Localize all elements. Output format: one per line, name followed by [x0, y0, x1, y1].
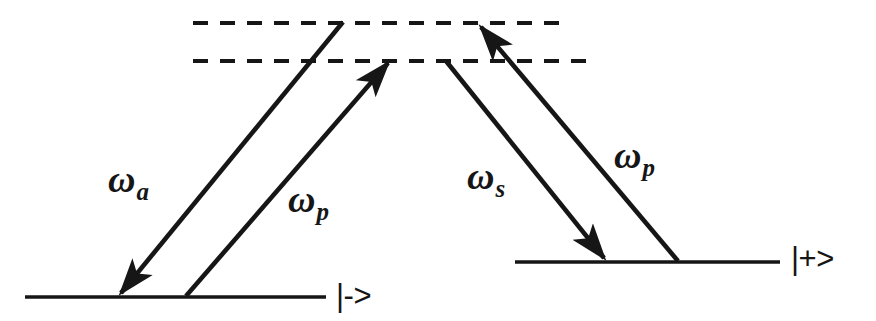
- omega-symbol: ω: [288, 178, 315, 220]
- omega-subscript: p: [316, 198, 329, 225]
- state-label-minus: |->: [336, 280, 371, 311]
- omega-symbol: ω: [614, 134, 641, 176]
- omega-symbol: ω: [108, 158, 135, 200]
- omega-symbol: ω: [467, 155, 494, 197]
- transition-label-omega-p-right: ωp: [614, 136, 655, 180]
- omega-subscript: a: [136, 178, 149, 205]
- energy-level-diagram: ωa ωp ωs ωp |-> |+>: [0, 0, 876, 321]
- omega-subscript: s: [495, 175, 505, 202]
- transition-label-omega-a: ωa: [108, 160, 149, 204]
- transition-label-omega-p-left: ωp: [288, 180, 329, 224]
- transition-label-omega-s: ωs: [467, 157, 505, 201]
- state-label-plus: |+>: [791, 243, 834, 274]
- omega-subscript: p: [642, 154, 655, 181]
